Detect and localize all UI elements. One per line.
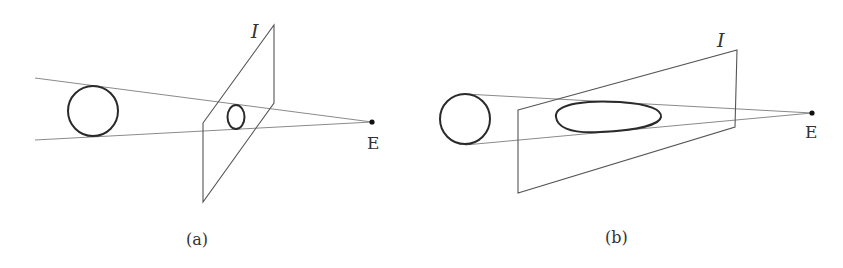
plane-label: I: [250, 20, 259, 42]
sphere: [68, 86, 118, 136]
panel-caption: (a): [186, 230, 208, 249]
projected-image: [228, 105, 245, 129]
image-plane: [518, 50, 737, 193]
panel-caption: (b): [605, 228, 628, 247]
sphere: [440, 94, 490, 144]
eye-label: E: [367, 133, 379, 153]
panel-a: I E (a): [35, 20, 379, 249]
eye-label: E: [805, 122, 817, 142]
projected-image: [556, 101, 661, 132]
upper-tangent-ray: [35, 78, 372, 122]
eye-point: [369, 119, 374, 124]
eye-point: [809, 110, 814, 115]
perspective-projection-figure: I E (a) I E (b): [0, 0, 843, 268]
panel-b: I E (b): [440, 29, 817, 247]
plane-label: I: [716, 29, 725, 51]
image-plane: [203, 25, 274, 202]
